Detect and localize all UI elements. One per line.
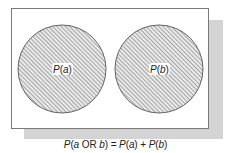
formula-caption: P(a OR b) = P(a) + P(b) (0, 139, 231, 150)
venn-diagram: P(a) P(b) (0, 0, 231, 153)
set-a-label: P(a) (53, 64, 72, 75)
set-b-label: P(b) (150, 64, 169, 75)
set-a-circle-group: P(a) (18, 25, 106, 113)
set-b-circle-group: P(b) (115, 25, 203, 113)
